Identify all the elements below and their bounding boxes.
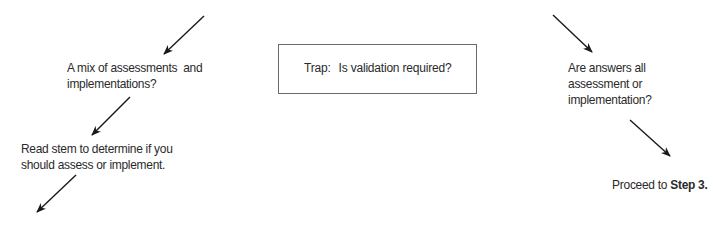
node-all-same-line2: assessment or <box>568 76 652 92</box>
node-mix: A mix of assessments and implementations… <box>67 60 202 92</box>
arrow-to-all-same <box>553 15 592 52</box>
node-read-stem: Read stem to determine if you should ass… <box>21 141 173 173</box>
proceed-text: Proceed to <box>612 177 670 192</box>
trap-label: Trap:Is validation required? <box>304 61 451 75</box>
node-mix-line2: implementations? <box>67 76 202 92</box>
arrow-to-read-stem <box>92 97 130 135</box>
node-mix-line1: A mix of assessments and <box>67 60 202 76</box>
node-all-same-line1: Are answers all <box>568 60 652 76</box>
node-read-stem-line1: Read stem to determine if you <box>21 141 173 157</box>
node-all-same: Are answers all assessment or implementa… <box>568 60 652 108</box>
node-proceed: Proceed to Step 3. <box>606 161 708 193</box>
proceed-step: Step 3. <box>670 177 707 192</box>
arrow-to-proceed <box>630 120 670 156</box>
trap-text: Is validation required? <box>339 61 452 75</box>
arrow-out-read-stem <box>37 175 76 212</box>
node-read-stem-line2: should assess or implement. <box>21 157 173 173</box>
arrow-to-mix <box>164 16 204 54</box>
trap-box: Trap:Is validation required? <box>278 44 477 94</box>
node-all-same-line3: implementation? <box>568 92 652 108</box>
trap-prefix: Trap: <box>304 61 331 75</box>
